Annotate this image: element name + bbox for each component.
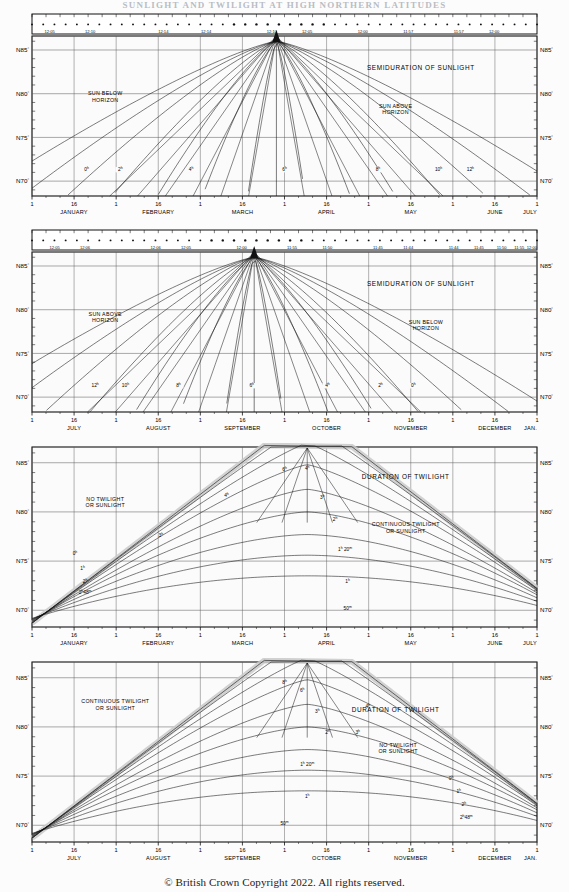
date-tick-label: 1 — [535, 847, 538, 853]
transit-time-dot — [446, 23, 448, 25]
transit-time-dot — [300, 239, 302, 241]
transit-time-label: 11:55 — [514, 245, 525, 250]
transit-time-label: 11:57 — [403, 29, 414, 34]
transit-time-dot — [132, 239, 134, 241]
transit-time-label: 11:50 — [322, 245, 333, 250]
transit-time-dot — [222, 23, 224, 25]
transit-time-dot — [514, 23, 516, 25]
date-tick-label: 16 — [239, 201, 245, 207]
zone-label: NO TWILIGHT — [86, 496, 124, 502]
transit-time-dot — [244, 23, 246, 25]
chart-page: SUNLIGHT AND TWILIGHT AT HIGH NORTHERN L… — [0, 0, 569, 892]
transit-time-dot — [87, 23, 89, 25]
date-tick-label: 16 — [492, 201, 498, 207]
transit-time-dot — [390, 23, 392, 25]
transit-time-label: 12:00 — [236, 245, 247, 250]
date-tick-label: 16 — [239, 632, 245, 638]
transit-time-dot — [266, 23, 268, 25]
latitude-tick-label: N70° — [16, 606, 29, 614]
month-label: DECEMBER — [478, 855, 511, 861]
transit-time-dot — [211, 23, 213, 25]
transit-time-dot — [199, 23, 201, 25]
transit-time-label: 12:05 — [181, 245, 192, 250]
latitude-tick-label: N85° — [16, 673, 29, 681]
transit-time-dot — [446, 239, 448, 241]
chart-canvas: N85°N85°N80°N80°N75°N75°N70°N70°11611611… — [0, 658, 569, 872]
transit-time-label: 12:06 — [80, 245, 91, 250]
transit-time-dot — [356, 239, 358, 241]
date-tick-label: 16 — [408, 632, 414, 638]
zone-label: HORIZON — [92, 97, 119, 103]
date-tick-label: 1 — [451, 201, 454, 207]
latitude-tick-label: N85° — [540, 458, 553, 466]
month-label: APRIL — [318, 640, 335, 646]
date-tick-label: 1 — [283, 417, 286, 423]
date-tick-label: 1 — [367, 847, 370, 853]
chart-semiduration-jul-dec: N85°N85°N80°N80°N75°N75°N70°N70°11611611… — [0, 228, 569, 442]
date-tick-label: 1 — [283, 847, 286, 853]
date-tick-label: 1 — [367, 632, 370, 638]
transit-time-dot — [401, 239, 403, 241]
month-label: AUGUST — [146, 425, 171, 431]
latitude-tick-label: N80° — [540, 89, 553, 97]
transit-time-dot — [154, 23, 156, 25]
transit-time-dot — [154, 239, 156, 241]
transit-time-label: 11:45 — [474, 245, 485, 250]
month-label: MARCH — [232, 640, 254, 646]
transit-time-dot — [323, 23, 325, 25]
date-tick-label: 16 — [239, 417, 245, 423]
date-tick-label: 16 — [155, 632, 161, 638]
date-tick-label: 1 — [199, 201, 202, 207]
transit-time-label: 12:00 — [527, 245, 538, 250]
zone-label: HORIZON — [413, 325, 440, 331]
transit-time-dot — [289, 239, 291, 241]
transit-time-dot — [233, 23, 235, 25]
month-label: JAN. — [524, 855, 537, 861]
month-label: JULY — [523, 209, 537, 215]
month-label: APRIL — [318, 209, 335, 215]
date-tick-label: 16 — [323, 201, 329, 207]
zone-label: OR SUNLIGHT — [378, 748, 418, 754]
transit-time-dot — [311, 23, 313, 25]
transit-time-dot — [514, 239, 516, 241]
month-label: DECEMBER — [478, 425, 511, 431]
transit-time-dot — [98, 239, 100, 241]
transit-time-dot — [480, 239, 482, 241]
zone-label: SUN ABOVE — [379, 103, 412, 109]
transit-time-dot — [536, 23, 538, 25]
month-label: NOVEMBER — [394, 855, 428, 861]
latitude-tick-label: N70° — [540, 821, 553, 829]
zone-label: CONTINUOUS TWILIGHT — [372, 521, 440, 527]
latitude-tick-label: N75° — [540, 133, 553, 141]
date-tick-label: 16 — [239, 847, 245, 853]
transit-time-dot — [278, 239, 280, 241]
month-label: FEBRUARY — [142, 209, 174, 215]
date-tick-label: 1 — [30, 201, 33, 207]
month-label: JUNE — [487, 209, 502, 215]
latitude-tick-label: N85° — [16, 46, 29, 54]
date-tick-label: 1 — [451, 632, 454, 638]
chart-canvas: N85°N85°N80°N80°N75°N75°N70°N70°11611611… — [0, 12, 569, 226]
date-tick-label: 16 — [408, 201, 414, 207]
transit-time-dot — [424, 239, 426, 241]
transit-time-dot — [278, 23, 280, 25]
month-label: MAY — [405, 640, 417, 646]
latitude-tick-label: N75° — [540, 349, 553, 357]
chart-twilight-jul-dec: N85°N85°N80°N80°N75°N75°N70°N70°11611611… — [0, 658, 569, 872]
date-tick-label: 1 — [367, 417, 370, 423]
transit-time-dot — [255, 239, 257, 241]
transit-time-dot — [491, 239, 493, 241]
date-tick-label: 1 — [283, 201, 286, 207]
date-tick-label: 16 — [323, 417, 329, 423]
transit-time-dot — [233, 239, 235, 241]
transit-time-dot — [345, 239, 347, 241]
panel-title: SEMIDURATION OF SUNLIGHT — [367, 64, 475, 71]
date-tick-label: 1 — [283, 632, 286, 638]
latitude-tick-label: N85° — [540, 262, 553, 270]
date-tick-label: 1 — [367, 201, 370, 207]
chart-twilight-jan-jul: N85°N85°N80°N80°N75°N75°N70°N70°11611611… — [0, 443, 569, 657]
date-tick-label: 16 — [71, 632, 77, 638]
transit-time-dot — [469, 23, 471, 25]
date-tick-label: 1 — [199, 417, 202, 423]
transit-time-dot — [42, 23, 44, 25]
